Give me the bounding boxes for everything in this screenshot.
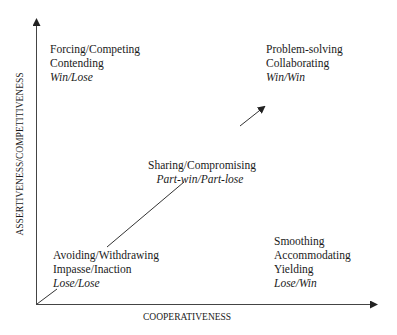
center-sharing-compromising: Sharing/Compromising Part-win/Part-lose [148,158,252,186]
strategy-label: Avoiding/Withdrawing [53,248,159,262]
strategy-label: Problem-solving [266,42,343,56]
quadrant-avoiding-withdrawing: Avoiding/Withdrawing Impasse/Inaction Lo… [53,248,159,290]
strategy-label: Forcing/Competing [50,42,140,56]
outcome-label: Win/Win [266,70,343,84]
diagonal-segment-middle [107,182,184,247]
outcome-label: Win/Lose [50,70,140,84]
strategy-label: Sharing/Compromising [148,158,252,172]
strategy-label: Yielding [274,262,351,276]
outcome-label: Lose/Win [274,276,351,290]
strategy-label: Accommodating [274,248,351,262]
diagonal-arrow [240,107,264,126]
outcome-label: Part-win/Part-lose [148,172,252,186]
diagonal-segment-origin [37,289,57,304]
quadrant-smoothing-accommodating: Smoothing Accommodating Yielding Lose/Wi… [274,234,351,290]
quadrant-forcing-competing: Forcing/Competing Contending Win/Lose [50,42,140,84]
strategy-label: Impasse/Inaction [53,262,159,276]
strategy-label: Collaborating [266,56,343,70]
quadrant-problem-solving: Problem-solving Collaborating Win/Win [266,42,343,84]
outcome-label: Lose/Lose [53,276,159,290]
y-axis-label: ASSERTIVENESS/COMPETITIVENESS [15,72,25,235]
strategy-label: Smoothing [274,234,351,248]
strategy-label: Contending [50,56,140,70]
x-axis-label: COOPERATIVENESS [143,312,231,322]
